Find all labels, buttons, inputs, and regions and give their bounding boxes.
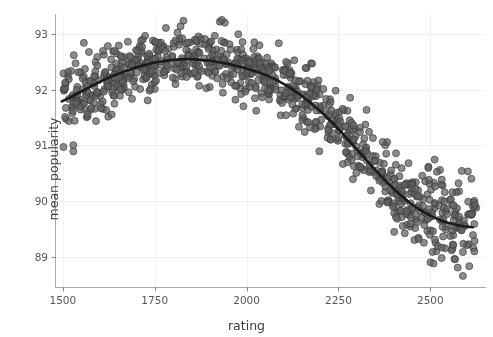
x-tick-label: 1500 [49,294,76,306]
x-tick-label: 2250 [325,294,352,306]
x-tick-label: 2500 [417,294,444,306]
y-tick-label: 93 [22,28,48,40]
scatter-plot-figure: mean popularity rating 8990919293 150017… [0,0,493,337]
x-tick-label: 1750 [141,294,168,306]
x-tick-label: 2000 [233,294,260,306]
x-axis-label: rating [228,318,265,333]
y-tick-label: 90 [22,195,48,207]
plot-canvas [0,0,493,337]
y-tick-label: 89 [22,251,48,263]
y-tick-label: 91 [22,139,48,151]
y-axis-label: mean popularity [46,117,61,220]
y-tick-label: 92 [22,84,48,96]
